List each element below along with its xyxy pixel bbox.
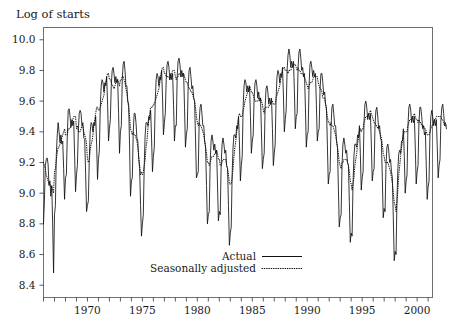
y-tick-label: 9.6 — [19, 95, 36, 107]
y-tick-label: 8.8 — [19, 217, 36, 229]
x-tick-label: 2000 — [404, 304, 431, 316]
y-tick-label: 9.8 — [19, 64, 36, 76]
x-tick-label: 1980 — [184, 304, 211, 316]
x-tick-label: 1985 — [239, 304, 266, 316]
y-axis-label: Log of starts — [16, 7, 90, 21]
y-tick-label: 9.4 — [19, 125, 36, 137]
y-tick-label: 8.6 — [19, 248, 36, 260]
y-tick-label: 8.4 — [19, 279, 36, 291]
x-tick-label: 1990 — [294, 304, 321, 316]
y-tick-label: 9.2 — [19, 156, 36, 168]
y-tick-label: 9.0 — [19, 187, 36, 199]
x-tick-label: 1970 — [74, 304, 101, 316]
legend-label-actual: Actual — [221, 250, 257, 262]
x-tick-label: 1995 — [349, 304, 376, 316]
y-tick-label: 10.0 — [12, 33, 35, 45]
legend-label-seasonally-adjusted: Seasonally adjusted — [150, 262, 256, 274]
x-tick-label: 1975 — [129, 304, 156, 316]
chart-figure: Log of starts 8.48.68.89.09.29.49.69.810… — [0, 0, 455, 336]
